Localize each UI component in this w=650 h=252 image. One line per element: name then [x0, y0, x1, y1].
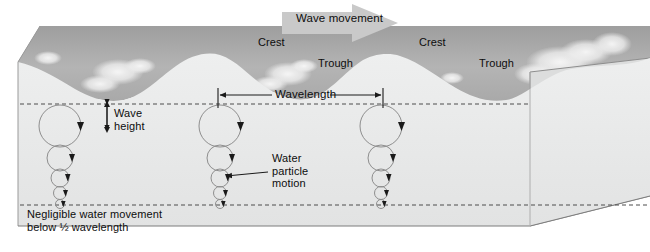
label-water-particle-motion: Water particle motion: [272, 152, 308, 190]
label-wavelength: Wavelength: [275, 88, 336, 101]
wave-diagram-figure: Wave movement Crest Crest Trough Trough …: [0, 0, 650, 252]
label-crest-1: Crest: [258, 36, 285, 49]
label-trough-2: Trough: [479, 57, 514, 70]
label-trough-1: Trough: [318, 57, 353, 70]
label-wave-height: Wave height: [114, 107, 145, 132]
label-negligible-water-movement: Negligible water movement below ½ wavele…: [27, 208, 162, 233]
label-crest-2: Crest: [419, 36, 446, 49]
label-wave-movement: Wave movement: [296, 12, 383, 25]
